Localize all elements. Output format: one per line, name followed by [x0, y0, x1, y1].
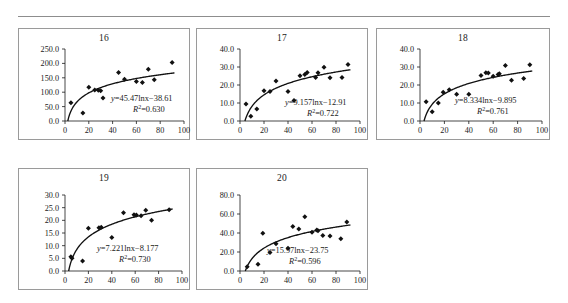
svg-text:0.0: 0.0	[404, 117, 414, 126]
svg-text:100.0: 100.0	[41, 88, 59, 97]
svg-text:80.0: 80.0	[220, 191, 234, 200]
svg-text:y=8.334lnx−9.895: y=8.334lnx−9.895	[454, 96, 517, 105]
svg-text:0: 0	[418, 126, 422, 135]
svg-text:40: 40	[108, 276, 116, 285]
svg-text:y=7.221lnx−8.177: y=7.221lnx−8.177	[96, 244, 159, 253]
svg-text:0: 0	[238, 126, 242, 135]
svg-text:0.0: 0.0	[49, 117, 59, 126]
svg-text:10.0: 10.0	[45, 242, 59, 251]
svg-text:40: 40	[465, 126, 473, 135]
svg-text:0.0: 0.0	[224, 267, 234, 276]
svg-text:60: 60	[308, 276, 316, 285]
svg-text:20: 20	[85, 126, 93, 135]
svg-text:0: 0	[238, 276, 242, 285]
svg-text:50.0: 50.0	[45, 103, 59, 112]
svg-text:150.0: 150.0	[41, 74, 59, 83]
svg-text:R2=0.730: R2=0.730	[118, 254, 151, 264]
svg-text:60: 60	[308, 126, 316, 135]
chart-plot-16: 0.050.0100.0150.0200.0250.0020406080100y…	[19, 29, 189, 139]
svg-text:80: 80	[514, 126, 522, 135]
svg-text:100: 100	[176, 276, 188, 285]
svg-text:80: 80	[156, 126, 164, 135]
svg-text:60.0: 60.0	[220, 210, 234, 219]
svg-text:0: 0	[63, 276, 67, 285]
svg-text:100: 100	[536, 126, 548, 135]
svg-text:20: 20	[84, 276, 92, 285]
svg-text:80: 80	[155, 276, 163, 285]
svg-text:20.0: 20.0	[400, 81, 414, 90]
svg-text:40: 40	[284, 126, 292, 135]
chart-panel-19: 19 0.05.010.015.020.025.030.002040608010…	[18, 168, 190, 290]
svg-text:40: 40	[109, 126, 117, 135]
svg-text:40.0: 40.0	[220, 229, 234, 238]
svg-text:60: 60	[131, 276, 139, 285]
svg-text:20.0: 20.0	[220, 248, 234, 257]
svg-text:100: 100	[354, 276, 366, 285]
chart-panel-17: 17 0.010.020.030.040.0020406080100y=9.15…	[196, 28, 368, 140]
svg-text:10.0: 10.0	[400, 99, 414, 108]
svg-text:y=45.47lnx−38.61: y=45.47lnx−38.61	[110, 94, 173, 103]
chart-panel-20: 20 0.020.040.060.080.0020406080100y=15.9…	[196, 168, 368, 290]
chart-plot-20: 0.020.040.060.080.0020406080100y=15.97ln…	[197, 169, 367, 289]
svg-text:10.0: 10.0	[220, 99, 234, 108]
svg-text:20.0: 20.0	[45, 216, 59, 225]
svg-text:0: 0	[63, 126, 67, 135]
svg-text:80: 80	[332, 276, 340, 285]
svg-text:25.0: 25.0	[45, 204, 59, 213]
chart-panel-16: 16 0.050.0100.0150.0200.0250.00204060801…	[18, 28, 190, 140]
svg-text:60: 60	[489, 126, 497, 135]
svg-text:60: 60	[132, 126, 140, 135]
svg-text:20: 20	[440, 126, 448, 135]
svg-text:20: 20	[260, 276, 268, 285]
svg-text:30.0: 30.0	[400, 63, 414, 72]
svg-text:40: 40	[284, 276, 292, 285]
svg-text:y=15.97lnx−23.75: y=15.97lnx−23.75	[266, 246, 329, 255]
svg-text:R2=0.761: R2=0.761	[476, 106, 509, 116]
svg-text:40.0: 40.0	[220, 45, 234, 54]
svg-text:0.0: 0.0	[224, 117, 234, 126]
chart-plot-17: 0.010.020.030.040.0020406080100y=9.157ln…	[197, 29, 367, 139]
svg-text:30.0: 30.0	[220, 63, 234, 72]
chart-panel-18: 18 0.010.020.030.040.0020406080100y=8.33…	[376, 28, 550, 140]
svg-text:5.0: 5.0	[49, 254, 59, 263]
chart-plot-19: 0.05.010.015.020.025.030.0020406080100y=…	[19, 169, 189, 289]
svg-text:40.0: 40.0	[400, 45, 414, 54]
svg-text:30.0: 30.0	[45, 191, 59, 200]
svg-text:0.0: 0.0	[49, 267, 59, 276]
figure-page: 16 0.050.0100.0150.0200.0250.00204060801…	[0, 0, 568, 303]
svg-text:80: 80	[332, 126, 340, 135]
svg-text:100: 100	[178, 126, 190, 135]
svg-text:15.0: 15.0	[45, 229, 59, 238]
svg-text:R2=0.596: R2=0.596	[288, 256, 321, 266]
svg-text:200.0: 200.0	[41, 59, 59, 68]
svg-text:250.0: 250.0	[41, 45, 59, 54]
svg-text:y=9.157lnx−12.91: y=9.157lnx−12.91	[284, 98, 347, 107]
svg-text:100: 100	[354, 126, 366, 135]
svg-text:R2=0.630: R2=0.630	[132, 104, 165, 114]
svg-text:R2=0.722: R2=0.722	[306, 108, 339, 118]
svg-text:20.0: 20.0	[220, 81, 234, 90]
svg-text:20: 20	[260, 126, 268, 135]
top-horizontal-rule	[18, 16, 550, 17]
chart-plot-18: 0.010.020.030.040.0020406080100y=8.334ln…	[377, 29, 549, 139]
